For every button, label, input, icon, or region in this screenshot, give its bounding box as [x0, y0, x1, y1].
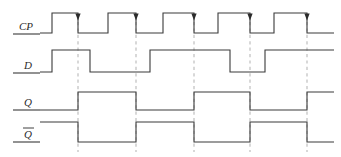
signal-label-q: Q: [24, 96, 32, 108]
timing-diagram-root: CPDQQ: [0, 0, 341, 157]
signal-label-group: CPDQQ: [13, 20, 40, 142]
falling-edge-arrow-2: [133, 14, 138, 21]
waveform-qbar: [40, 122, 334, 142]
waveform-d: [40, 50, 334, 72]
waveform-group: [40, 13, 334, 142]
timing-diagram-canvas: CPDQQ: [0, 0, 341, 157]
waveform-q: [40, 92, 334, 110]
falling-edge-arrow-3: [191, 14, 196, 21]
grid-line-group: [78, 22, 307, 152]
signal-label-qbar: Q: [24, 128, 32, 140]
falling-edge-arrow-1: [75, 14, 80, 21]
falling-edge-arrow-5: [304, 14, 309, 21]
signal-label-cp: CP: [19, 20, 33, 32]
signal-label-d: D: [23, 59, 32, 71]
falling-edge-arrow-4: [247, 14, 252, 21]
waveform-cp: [40, 13, 334, 33]
